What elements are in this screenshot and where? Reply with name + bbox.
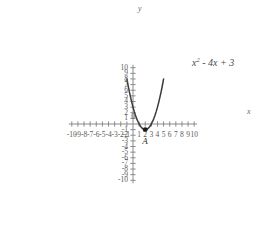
x-tick-label: 0: [131, 113, 135, 121]
graph-figure: -10-9-8-7-6-5-4-3-2-1012345678910 -10-9-…: [0, 0, 262, 241]
x-tick-label: 8: [180, 131, 184, 139]
axes: [69, 65, 197, 184]
x-tick-label: 9: [186, 131, 190, 139]
point-a-label: A: [142, 137, 148, 146]
x-tick-label: 7: [174, 131, 178, 139]
x-axis-label: x: [247, 108, 251, 116]
y-tick-label: 10: [121, 64, 129, 72]
x-tick-label: 1: [137, 131, 141, 139]
y-tick-label: -1: [122, 126, 128, 134]
equation-rest: - 4x + 3: [200, 57, 235, 68]
x-tick-label: 10: [190, 131, 198, 139]
x-tick-label: 6: [168, 131, 172, 139]
y-axis-label: y: [138, 5, 142, 13]
x-tick-label: 3: [149, 131, 153, 139]
x-tick-label: 4: [156, 131, 160, 139]
equation-annotation: x2 - 4x + 3: [192, 57, 234, 68]
x-tick-label: 5: [162, 131, 166, 139]
